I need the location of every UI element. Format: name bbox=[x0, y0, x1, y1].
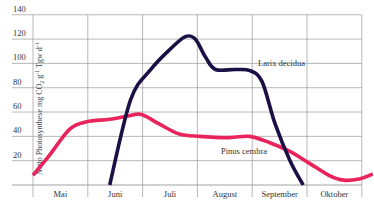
y-tick-label: 40 bbox=[13, 125, 22, 135]
y-tick-label: 60 bbox=[13, 101, 22, 111]
x-axis-months: MaiJuniJuliAugustSeptemberOktober bbox=[54, 189, 349, 199]
x-tick-label: Juni bbox=[108, 189, 123, 199]
y-tick-label: 100 bbox=[13, 52, 26, 62]
series-lines bbox=[33, 36, 373, 185]
grid bbox=[12, 15, 362, 197]
x-tick-label: August bbox=[213, 189, 238, 199]
series-line-pinus-cembra bbox=[33, 114, 373, 180]
x-tick-label: Mai bbox=[54, 189, 68, 199]
photosynthesis-chart: 20406080100120140 MaiJuniJuliAugustSepte… bbox=[0, 0, 374, 211]
series-label: Larix decidua bbox=[258, 58, 305, 68]
x-tick-label: Juli bbox=[164, 189, 177, 199]
y-tick-label: 140 bbox=[13, 4, 26, 14]
x-tick-label: September bbox=[261, 189, 298, 199]
x-tick-label: Oktober bbox=[320, 189, 348, 199]
y-tick-label: 120 bbox=[13, 28, 26, 38]
y-tick-label: 80 bbox=[13, 77, 22, 87]
series-label: Pinus cembra bbox=[221, 146, 267, 156]
y-axis-label: Netto Photosynthese mg CO2 g-1 Tgw d-1 bbox=[34, 42, 45, 175]
y-tick-label: 20 bbox=[13, 150, 22, 160]
